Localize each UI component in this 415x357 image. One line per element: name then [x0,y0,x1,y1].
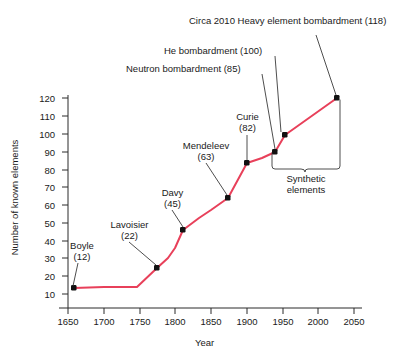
annotation-boyle: Boyle (12) [65,240,99,262]
annotation-curie-line1: Curie [236,111,259,122]
annotation-he-bombardment: He bombardment (100) [164,45,262,56]
annotation-synthetic-elements: Synthetic elements [275,173,337,195]
annotation-boyle-line2: (12) [65,251,99,262]
annotation-davy-line2: (45) [152,198,193,209]
y-tick-label-50: 50 [33,218,55,229]
annotation-mendeleev-line1: Mendeleev [183,140,229,151]
x-axis-title: Year [195,337,214,348]
x-axis-ticks [68,308,354,314]
data-point-curie [244,160,250,166]
data-point-heavy [334,95,340,101]
y-tick-label-80: 80 [33,165,55,176]
y-tick-label-70: 70 [33,182,55,193]
x-tick-label-1900: 1900 [230,316,264,327]
annotation-mendeleev-line2: (63) [171,151,241,162]
y-tick-label-120: 120 [33,93,55,104]
y-tick-label-60: 60 [33,200,55,211]
y-tick-label-30: 30 [33,253,55,264]
data-point-boyle [71,285,77,291]
annotation-synthetic-line2: elements [275,184,337,195]
x-tick-label-1800: 1800 [158,316,192,327]
x-tick-label-2000: 2000 [301,316,335,327]
annotation-curie-line2: (82) [229,122,266,133]
y-tick-label-20: 20 [33,271,55,282]
x-tick-label-1950: 1950 [266,316,300,327]
annotation-neutron-bombardment: Neutron bombardment (85) [126,63,241,74]
axis-lines [59,95,362,308]
data-point-mendeleev [225,195,231,201]
leader-heavy [316,35,336,95]
x-tick-label-1650: 1650 [51,316,85,327]
annotation-heavy-element-bombardment: Circa 2010 Heavy element bombardment (11… [189,15,386,26]
data-point-davy [180,227,186,233]
leader-davy [172,210,183,227]
y-tick-label-100: 100 [33,129,55,140]
x-tick-label-1850: 1850 [194,316,228,327]
chart-figure: 120 110 100 90 80 70 60 50 40 30 20 10 1… [0,0,415,357]
x-tick-label-1750: 1750 [123,316,157,327]
annotation-boyle-line1: Boyle [70,240,94,251]
y-tick-label-40: 40 [33,236,55,247]
leader-boyle [73,263,78,286]
x-tick-label-1700: 1700 [87,316,121,327]
data-point-lavoisier [154,265,160,271]
y-axis-ticks [62,98,68,294]
annotation-lavoisier-line1: Lavoisier [110,219,148,230]
annotation-lavoisier-line2: (22) [104,230,155,241]
annotation-davy: Davy (45) [152,187,193,209]
y-tick-label-90: 90 [33,147,55,158]
annotation-curie: Curie (82) [229,111,266,133]
data-point-neutron [272,149,278,155]
data-point-helium [282,132,288,138]
annotation-davy-line1: Davy [162,187,184,198]
leader-lavoisier [129,242,156,265]
y-tick-label-110: 110 [33,111,55,122]
annotation-lavoisier: Lavoisier (22) [104,219,155,241]
annotation-mendeleev: Mendeleev (63) [171,140,241,162]
y-tick-label-10: 10 [33,289,55,300]
y-axis-title: Number of known elements [9,118,20,278]
leader-mendeleev [206,163,227,195]
leader-helium [275,56,281,132]
x-tick-label-2050: 2050 [337,316,371,327]
annotation-synthetic-line1: Synthetic [286,173,325,184]
